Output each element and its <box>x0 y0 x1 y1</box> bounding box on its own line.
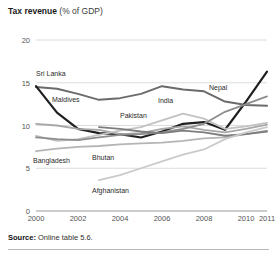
series-label-maldives: Maldives <box>52 96 80 103</box>
x-axis-tick-2011: 2011 <box>250 214 277 223</box>
y-axis-tick-15: 15 <box>8 78 30 87</box>
series-label-nepal: Nepal <box>209 84 227 91</box>
series-label-pakistan: Pakistan <box>120 112 147 119</box>
source-note: Source: Online table 5.6. <box>8 233 93 242</box>
series-label-sri-lanka: Sri Lanka <box>36 70 66 77</box>
series-label-bangladesh: Bangladesh <box>33 157 70 164</box>
y-axis-tick-20: 20 <box>8 36 30 45</box>
source-text: Online table 5.6. <box>36 233 93 242</box>
source-label: Source: <box>8 233 36 242</box>
x-axis-tick-2000: 2000 <box>19 214 53 223</box>
series-label-afghanistan: Afghanistan <box>92 187 129 194</box>
y-axis-tick-10: 10 <box>8 121 30 130</box>
x-axis-tick-2002: 2002 <box>61 214 95 223</box>
x-axis-tick-2004: 2004 <box>103 214 137 223</box>
series-label-india: India <box>158 97 173 104</box>
x-axis-tick-2006: 2006 <box>145 214 179 223</box>
tax-revenue-chart: Tax revenue (% of GDP) 05101520200020022… <box>0 0 277 257</box>
bottom-divider <box>8 249 269 250</box>
x-axis-tick-2008: 2008 <box>187 214 221 223</box>
y-axis-tick-5: 5 <box>8 164 30 173</box>
series-label-bhutan: Bhutan <box>92 154 114 161</box>
